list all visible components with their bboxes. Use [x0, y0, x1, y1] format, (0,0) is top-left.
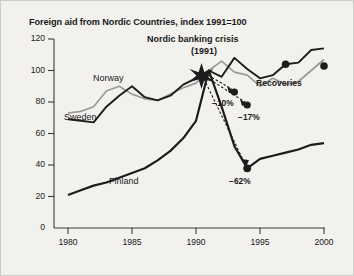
x-tick-label-1990: 1990 — [178, 237, 214, 247]
y-tick-label-120: 120 — [25, 33, 45, 43]
marker-finland-drop — [243, 164, 251, 172]
y-tick-label-40: 40 — [25, 159, 45, 169]
y-tick-label-100: 100 — [25, 65, 45, 75]
marker-recovery-2 — [320, 62, 328, 70]
series-label-norway: Norway — [93, 73, 124, 83]
y-tick-label-20: 20 — [25, 191, 45, 201]
marker-norway-drop — [231, 88, 238, 95]
annotation-finland-drop: −62% — [229, 176, 251, 186]
y-tick-marks — [48, 39, 54, 197]
annotation-crisis-year: (1991) — [147, 46, 261, 56]
y-tick-label-60: 60 — [25, 128, 45, 138]
x-tick-marks — [68, 228, 324, 234]
y-tick-label-0: 0 — [25, 222, 45, 232]
annotation-norway-drop: −10% — [212, 98, 234, 108]
annotation-sweden-drop: −17% — [238, 112, 260, 122]
x-tick-label-1985: 1985 — [114, 237, 150, 247]
series-label-finland: Finland — [109, 176, 139, 186]
y-tick-label-80: 80 — [25, 96, 45, 106]
x-tick-label-1995: 1995 — [242, 237, 278, 247]
series-label-sweden: Sweden — [64, 112, 97, 122]
chart-title: Foreign aid from Nordic Countries, index… — [29, 17, 246, 27]
x-tick-label-1980: 1980 — [50, 237, 86, 247]
annotation-recoveries: Recoveries — [256, 78, 302, 88]
annotation-crisis-title: Nordic banking crisis — [147, 34, 239, 44]
marker-recovery-1 — [282, 60, 290, 68]
x-tick-label-2000: 2000 — [306, 237, 342, 247]
chart-figure: Foreign aid from Nordic Countries, index… — [0, 0, 354, 276]
series-line-finland — [68, 71, 324, 196]
marker-sweden-drop — [244, 101, 251, 108]
